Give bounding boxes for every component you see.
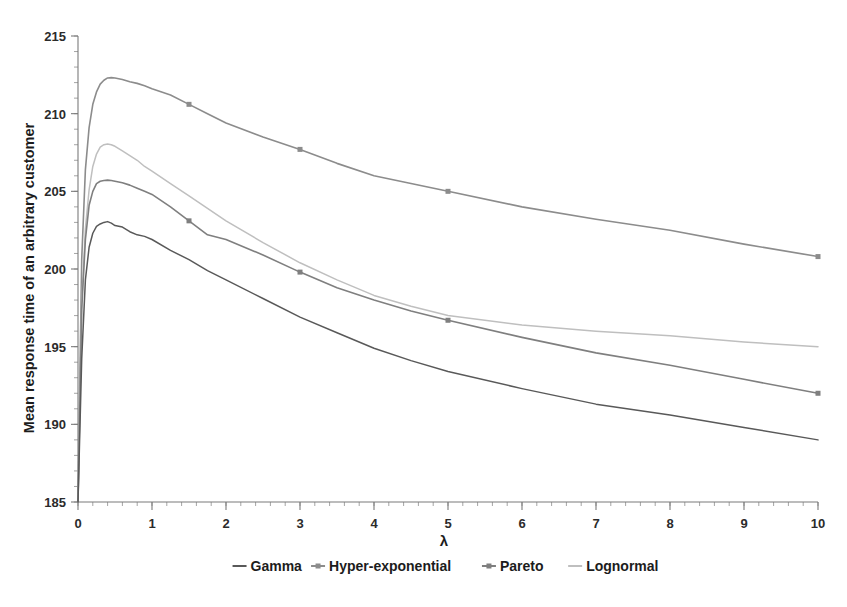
data-series-group [78,78,818,502]
y-axis-title: Mean response time of an arbitrary custo… [21,123,37,434]
y-tick-label: 200 [44,262,66,277]
legend-marker-swatch [486,564,491,569]
x-tick-label: 4 [370,516,378,531]
y-axis-tick-labels: 185190195200205210215 [44,29,66,510]
legend-marker-swatch [316,564,321,569]
series-line-gamma [78,222,818,502]
x-tick-label: 0 [74,516,81,531]
data-point-markers [187,102,821,396]
legend-label: Gamma [251,558,303,574]
data-point-marker [187,218,192,223]
legend-label: Pareto [500,558,544,574]
data-point-marker [446,189,451,194]
data-point-marker [298,147,303,152]
data-point-marker [187,102,192,107]
legend-item-pareto[interactable]: Pareto [482,558,544,574]
y-tick-label: 210 [44,107,66,122]
x-tick-label: 2 [222,516,229,531]
y-tick-label: 195 [44,340,66,355]
series-line-lognormal [78,144,818,502]
x-tick-label: 3 [296,516,303,531]
chart-figure: 185190195200205210215 012345678910 Mean … [0,0,847,607]
chart-legend: GammaHyper-exponentialParetoLognormal [233,558,659,574]
data-point-marker [446,318,451,323]
legend-item-gamma[interactable]: Gamma [233,558,303,574]
x-axis-title: λ [440,532,449,549]
line-chart-canvas: 185190195200205210215 012345678910 Mean … [0,0,847,607]
data-point-marker [816,254,821,259]
y-axis-major-ticks [71,36,78,502]
x-tick-label: 8 [666,516,673,531]
legend-item-hyper-exponential[interactable]: Hyper-exponential [311,558,451,574]
x-tick-label: 1 [148,516,155,531]
legend-item-lognormal[interactable]: Lognormal [568,558,658,574]
x-tick-label: 9 [740,516,747,531]
x-tick-label: 7 [592,516,599,531]
legend-label: Hyper-exponential [329,558,451,574]
data-point-marker [298,270,303,275]
legend-label: Lognormal [586,558,658,574]
data-point-marker [816,391,821,396]
x-axis-major-ticks [78,502,818,510]
x-axis-tick-labels: 012345678910 [74,516,825,531]
y-tick-label: 190 [44,417,66,432]
y-tick-label: 205 [44,184,66,199]
x-tick-label: 6 [518,516,525,531]
series-line-hyper-exponential [78,78,818,502]
y-tick-label: 185 [44,495,66,510]
series-line-pareto [78,180,818,502]
x-tick-label: 10 [811,516,825,531]
x-tick-label: 5 [444,516,451,531]
y-tick-label: 215 [44,29,66,44]
